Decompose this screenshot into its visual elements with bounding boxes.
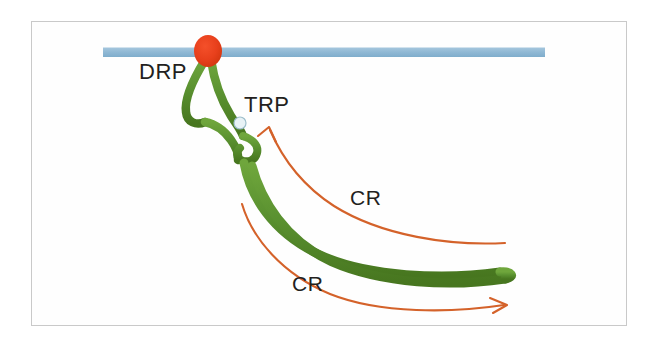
label-drp: DRP xyxy=(139,59,187,85)
horizontal-blue-bar xyxy=(103,48,545,58)
drp-red-node xyxy=(194,35,222,67)
label-trp: TRP xyxy=(244,92,290,118)
label-cr-lower: CR xyxy=(292,272,323,296)
cr-arrow-upper-shaft xyxy=(270,130,505,244)
diagram-svg xyxy=(0,0,660,348)
cr-arrow-upper-head xyxy=(258,127,276,142)
green-cord-left-loop xyxy=(186,60,205,124)
green-cord-group xyxy=(186,60,512,283)
label-cr-upper: CR xyxy=(350,186,381,210)
cr-arrow-upper-group xyxy=(258,127,505,244)
trp-marker-circle xyxy=(234,117,246,129)
diagram-canvas: DRP TRP CR CR xyxy=(0,0,660,348)
green-cord-strand-b xyxy=(252,166,505,283)
green-cord-tip xyxy=(500,272,511,279)
green-cord-lower-knot xyxy=(237,136,257,161)
